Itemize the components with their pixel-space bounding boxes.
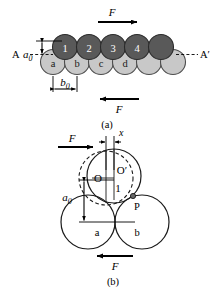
force-arrow-top-a: F	[98, 6, 137, 22]
figure-container: F a b c d 1 2 3 4	[0, 0, 214, 290]
top-atom-label-2: 2	[86, 43, 91, 54]
top-atom-label-4: 4	[134, 43, 140, 54]
top-atom-label-3: 3	[110, 43, 115, 54]
physics-diagram: F a b c d 1 2 3 4	[0, 0, 214, 290]
lower-atom-label-a: a	[95, 227, 100, 238]
top-layer-atoms-a: 1 2 3 4	[53, 35, 174, 60]
force-label-top-b: F	[68, 132, 76, 144]
center-label-O-prime: O′	[117, 164, 127, 176]
center-label-O: O	[94, 172, 102, 184]
panel-a: F a b c d 1 2 3 4	[12, 6, 210, 131]
caption-panel-b: (b)	[107, 276, 120, 288]
force-arrow-top-b: F	[58, 132, 93, 147]
dimension-b0-panel-a: b0	[53, 76, 77, 92]
force-label-bottom-a: F	[115, 103, 123, 115]
bottom-atom-label-b: b	[74, 58, 79, 69]
bottom-atom-label-d: d	[122, 58, 128, 69]
lower-atom-label-b: b	[134, 227, 139, 238]
dim-x-label: x	[118, 127, 124, 138]
section-label-A: A	[12, 49, 20, 60]
dim-a0-label: a0	[23, 48, 33, 63]
contact-point-label-P: P	[134, 201, 140, 212]
top-atom-5	[149, 35, 174, 60]
dim-a0b-label: a0	[62, 191, 72, 206]
section-label-A-prime: A′	[200, 49, 210, 60]
moving-atom-label-1: 1	[115, 182, 121, 194]
bottom-atom-label-a: a	[51, 58, 56, 69]
bottom-atom-label-c: c	[99, 58, 104, 69]
force-arrow-bottom-a: F	[100, 99, 139, 115]
force-label-top-a: F	[108, 6, 116, 18]
dim-b0-label: b0	[60, 76, 70, 91]
force-arrow-bottom-b: F	[97, 256, 133, 272]
force-label-bottom-b: F	[111, 260, 119, 272]
caption-panel-a: (a)	[101, 119, 113, 131]
contact-point-P-marker	[130, 193, 135, 198]
top-atom-label-1: 1	[62, 43, 67, 54]
panel-b: F x O O′ 1 a b P	[58, 127, 169, 288]
